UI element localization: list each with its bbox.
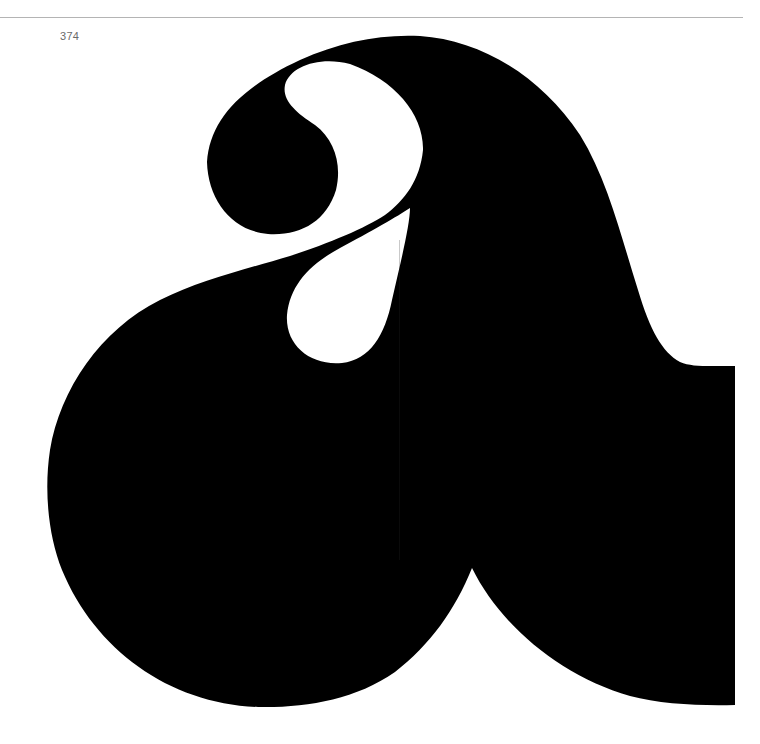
letter-a-glyph bbox=[0, 0, 760, 744]
page-fold-seam bbox=[399, 240, 400, 560]
